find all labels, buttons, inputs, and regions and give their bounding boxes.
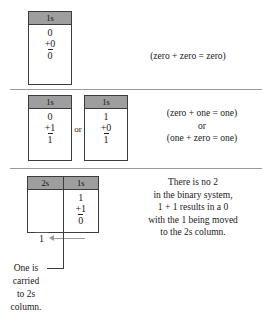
- addition-box-zero-plus-one: 1s 0 +1 1: [28, 95, 72, 161]
- carry-arrow-icon: [49, 235, 54, 241]
- column-header-row: 2s 1s: [28, 177, 98, 190]
- column-header-row: 1s: [85, 96, 127, 109]
- operand-bottom: +0: [45, 38, 56, 49]
- operand-bottom: +0: [101, 122, 112, 133]
- explanation-zero-plus-zero: (zero + zero = zero): [108, 50, 268, 63]
- explanation-one-plus-one: There is no 2 in the binary system, 1 + …: [118, 176, 268, 239]
- binary-addition-figure: 1s 0 +0 0 (zero + zero = zero) 1s 0 +1 1…: [0, 0, 274, 322]
- column-1s: 1 +0 1: [85, 109, 127, 160]
- column-header-row: 1s: [29, 96, 71, 109]
- column-header-1s: 1s: [63, 177, 99, 189]
- column-header-1s: 1s: [29, 96, 71, 108]
- sum-digit: 1: [104, 133, 109, 145]
- explanation-zero-plus-one: (zero + one = one) or (one + zero = one): [136, 107, 268, 145]
- addition-box-zero-plus-zero: 1s 0 +0 0: [28, 11, 72, 85]
- column-2s: 1: [28, 190, 63, 232]
- sum-digit: 0: [78, 214, 83, 226]
- addition-body: 0 +1 1: [29, 109, 71, 160]
- addition-body: 1 +0 1: [85, 109, 127, 160]
- operand-top: 1: [78, 192, 83, 203]
- operand-top: 0: [48, 111, 53, 122]
- or-connector: or: [72, 124, 84, 134]
- operand-bottom: +1: [75, 203, 86, 214]
- separator-rule-1: [10, 89, 262, 90]
- column-1s: 1 +1 0: [63, 190, 99, 232]
- addition-body: 0 +0 0: [29, 25, 71, 84]
- carry-digit: 1: [35, 233, 48, 244]
- column-header-row: 1s: [29, 12, 71, 25]
- column-1s: 0 +0 0: [29, 25, 71, 84]
- carry-caption: One is carried to 2s column.: [4, 262, 48, 314]
- operand-top: 0: [48, 27, 53, 38]
- sum-digit: 1: [48, 133, 53, 145]
- column-1s: 0 +1 1: [29, 109, 71, 160]
- separator-rule-2: [10, 168, 262, 169]
- leader-line-horizontal: [47, 268, 64, 269]
- leader-line-vertical: [63, 215, 64, 268]
- operand-top: 1: [104, 111, 109, 122]
- column-header-2s: 2s: [28, 177, 63, 189]
- sum-digit: 0: [48, 49, 53, 61]
- column-header-1s: 1s: [29, 12, 71, 24]
- carry-arrow-line: [51, 238, 85, 239]
- addition-box-one-plus-zero: 1s 1 +0 1: [84, 95, 128, 161]
- column-header-1s: 1s: [85, 96, 127, 108]
- operand-bottom: +1: [45, 122, 56, 133]
